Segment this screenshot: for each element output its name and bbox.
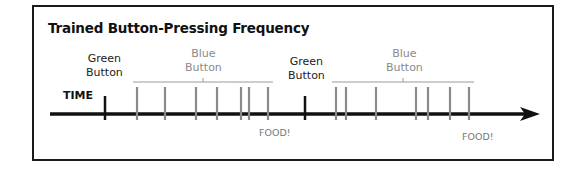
timeline-graphic [0, 0, 586, 173]
